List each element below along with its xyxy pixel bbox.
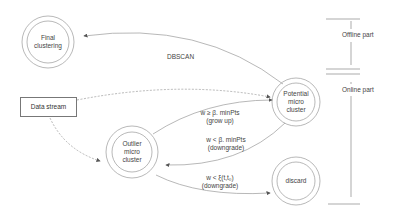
data-stream-label: Data stream [31, 103, 66, 110]
data-stream-box: Data stream [20, 97, 77, 117]
downgrade-outlier-label: w < ξ(t,t₀) (downgrade) [190, 174, 250, 190]
potential-micro-cluster-label: Potential micro cluster [276, 90, 316, 114]
discard-label: discard [276, 177, 316, 185]
downgrade-potential-label: w < β. minPts (downgrade) [196, 136, 256, 152]
outlier-micro-cluster-label: Outlier micro cluster [112, 140, 152, 164]
offline-part-label: Offline part [342, 31, 374, 39]
final-clustering-label: Final clustering [28, 34, 68, 50]
dbscan-label: DBSCAN [167, 53, 194, 61]
stream-to-potential-edge [77, 89, 270, 100]
grow-up-label: w ≥ β. minPts (grow up) [190, 109, 250, 125]
offline-bracket [326, 19, 360, 69]
stream-to-outlier-edge [50, 118, 100, 161]
online-part-label: Online part [342, 86, 374, 94]
